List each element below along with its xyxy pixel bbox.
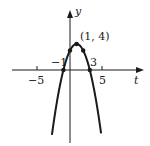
point-vertex (74, 42, 78, 46)
t-axis-arrow-icon (136, 67, 144, 73)
root-right-label: 3 (90, 56, 97, 69)
tick-pos5-label: 5 (99, 74, 106, 87)
point-sym (81, 48, 85, 52)
y-axis-arrow-icon (67, 10, 73, 18)
tick-neg5-label: −5 (28, 74, 44, 87)
point-y-intercept (68, 48, 72, 52)
vertex-label: (1, 4) (80, 30, 110, 43)
t-axis-label: t (134, 74, 139, 87)
y-axis-label: y (74, 5, 82, 18)
root-left-label: −1 (51, 56, 67, 69)
parabola-graph: y t (1, 4) −1 3 −5 5 (0, 0, 150, 146)
